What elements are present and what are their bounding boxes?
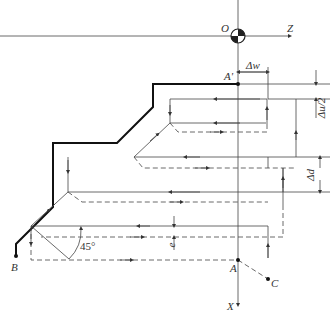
dimension-lines bbox=[238, 67, 330, 192]
a-prime-label: A' bbox=[223, 70, 234, 82]
z-axis-label: Z bbox=[287, 22, 294, 34]
tool-path-loop-1 bbox=[170, 99, 267, 132]
tool-path-loop-3 bbox=[68, 157, 283, 205]
delta-w-label: Δw bbox=[245, 59, 260, 71]
a-label: A bbox=[229, 262, 237, 274]
delta-u-half-label: Δu/2 bbox=[315, 97, 327, 119]
workpiece-profile bbox=[16, 84, 238, 256]
x-axis-label: X bbox=[226, 300, 235, 312]
cycle-diagram: O Z X A' A B C Δw Δu/2 Δd e 45° bbox=[0, 0, 330, 314]
c-label: C bbox=[271, 277, 279, 289]
delta-d-label: Δd bbox=[304, 169, 316, 182]
tool-path-loop-2 bbox=[134, 99, 296, 168]
diagram-canvas: O Z X A' A B C Δw Δu/2 Δd e 45° bbox=[0, 0, 330, 314]
tool-path-loop-4 bbox=[31, 192, 283, 279]
axes bbox=[0, 0, 290, 305]
b-label: B bbox=[11, 261, 18, 273]
angle-label: 45° bbox=[80, 240, 95, 252]
origin-icon bbox=[231, 29, 245, 43]
origin-label: O bbox=[221, 22, 229, 34]
e-label: e bbox=[165, 242, 177, 247]
